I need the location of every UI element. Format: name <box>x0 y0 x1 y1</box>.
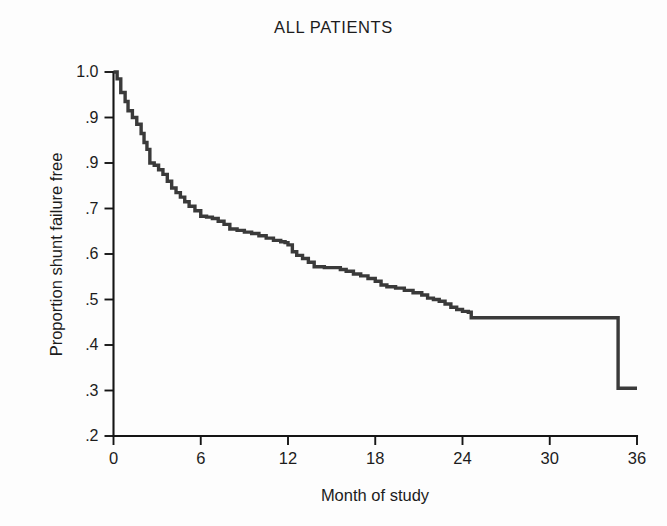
survival-curve-group <box>114 72 638 388</box>
x-tick-label: 18 <box>355 450 395 467</box>
x-tick-label: 0 <box>94 450 134 467</box>
y-tick-label: .7 <box>53 201 99 217</box>
x-tick-label: 12 <box>268 450 308 467</box>
y-tick-label: .5 <box>53 292 99 308</box>
x-tick-label: 36 <box>617 450 657 467</box>
y-axis-ticks <box>105 72 114 436</box>
plot-canvas <box>0 0 667 526</box>
y-tick-label: .9 <box>53 110 99 126</box>
y-tick-label: .2 <box>53 428 99 444</box>
y-tick-label: 1.0 <box>53 64 99 80</box>
survival-curve-line <box>114 72 638 388</box>
x-tick-label: 6 <box>181 450 221 467</box>
x-axis-ticks <box>114 436 638 445</box>
y-tick-label: .9 <box>53 155 99 171</box>
y-tick-label: .4 <box>53 337 99 353</box>
x-tick-label: 24 <box>443 450 483 467</box>
y-tick-label: .3 <box>53 383 99 399</box>
survival-curve-figure: ALL PATIENTS Proportion shunt failure fr… <box>0 0 667 526</box>
y-tick-label: .6 <box>53 246 99 262</box>
axes-group <box>114 72 638 436</box>
x-tick-label: 30 <box>530 450 570 467</box>
